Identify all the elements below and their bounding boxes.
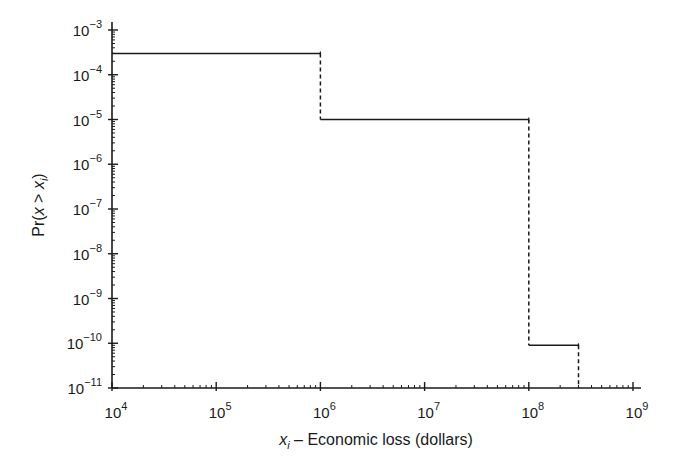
y-tick-label: 10−11 <box>67 376 102 397</box>
y-tick-label: 10−8 <box>73 242 102 263</box>
x-tick-label: 107 <box>417 400 440 421</box>
y-tick-label: 10−7 <box>73 197 102 218</box>
x-tick-labels: 104105106107108109 <box>105 400 649 421</box>
x-tick-label: 104 <box>105 400 128 421</box>
x-axis-title: xi – Economic loss (dollars) <box>278 431 473 451</box>
y-axis-title: Pr(x > xi) <box>30 173 50 236</box>
x-tick-label: 105 <box>209 400 232 421</box>
x-tick-label: 108 <box>521 400 544 421</box>
y-tick-label: 10−5 <box>73 108 102 129</box>
x-major-ticks <box>112 382 633 391</box>
y-tick-label: 10−6 <box>73 152 102 173</box>
x-tick-label: 106 <box>313 400 336 421</box>
y-tick-label: 10−10 <box>67 331 102 352</box>
exceedance-chart: 10−310−410−510−610−710−810−910−1010−11 1… <box>0 0 679 476</box>
y-tick-labels: 10−310−410−510−610−710−810−910−1010−11 <box>67 18 102 397</box>
step-series <box>112 51 579 388</box>
x-tick-label: 109 <box>626 400 649 421</box>
y-tick-label: 10−3 <box>73 18 102 39</box>
y-major-ticks <box>108 30 118 388</box>
y-tick-label: 10−9 <box>73 287 102 308</box>
y-tick-label: 10−4 <box>73 63 102 84</box>
